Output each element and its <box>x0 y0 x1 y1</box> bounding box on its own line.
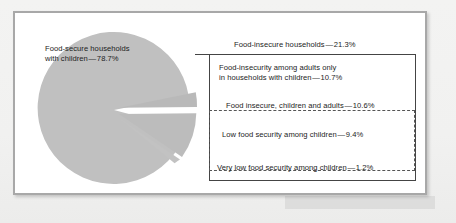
legend-item-label-line-2: in households with children — 10.7% <box>219 73 342 83</box>
pie-slice-label-food-secure: Food-secure households with children — 7… <box>45 44 165 63</box>
legend-item-adults-only: Food-insecurity among adults only in hou… <box>219 63 342 83</box>
legend-item-label: Very low food security among children — … <box>217 163 373 173</box>
page-footer-bar <box>285 196 435 209</box>
legend-item-label: Food insecure, children and adults — 10.… <box>226 101 375 111</box>
legend-item-label: Food-insecure households — 21.3% <box>234 40 356 50</box>
legend-item-low-food-security-children: Low food security among children — 9.4% <box>222 130 363 140</box>
legend-block: Food-insecure households — 21.3% Food-in… <box>195 31 416 181</box>
legend-dashed-box <box>209 110 415 171</box>
leader-line-children-and-adults <box>151 110 197 111</box>
legend-item-very-low-food-security-children: Very low food security among children — … <box>217 163 373 173</box>
legend-item-food-insecure-households: Food-insecure households — 21.3% <box>234 40 356 50</box>
plot-area: Food-secure households with children — 7… <box>15 13 425 193</box>
chart-panel: Food-secure households with children — 7… <box>13 11 427 195</box>
legend-item-label: Low food security among children — 9.4% <box>222 130 363 140</box>
legend-item-children-and-adults: Food insecure, children and adults — 10.… <box>226 101 375 111</box>
legend-item-label-line-1: Food-insecurity among adults only <box>219 63 342 73</box>
figure-container: Food-secure households with children — 7… <box>0 0 456 223</box>
pie-label-line-1: Food-secure households <box>45 44 165 54</box>
pie-label-line-2: with children — 78.7% <box>45 54 165 64</box>
